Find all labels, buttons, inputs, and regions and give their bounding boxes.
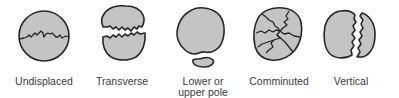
label-comminuted: Comminuted [249, 75, 309, 87]
pole-main-fragment [177, 8, 224, 54]
undisplaced-illustration [19, 11, 69, 61]
transverse-lower-fragment [103, 32, 145, 60]
pole-small-fragment [193, 58, 214, 67]
transverse-illustration [102, 6, 146, 60]
fracture-types-diagram: Undisplaced Transverse Lower or upper po… [0, 0, 399, 98]
label-vertical: Vertical [334, 75, 368, 87]
label-undisplaced: Undisplaced [15, 75, 73, 87]
transverse-upper-fragment [102, 6, 144, 31]
vertical-right-fragment [357, 13, 375, 57]
vertical-illustration [324, 11, 375, 58]
label-pole-line-2: upper pole [178, 86, 228, 98]
pole-illustration [177, 8, 224, 67]
label-transverse: Transverse [96, 75, 148, 87]
vertical-left-fragment [324, 11, 356, 58]
comminuted-illustration [254, 8, 302, 60]
